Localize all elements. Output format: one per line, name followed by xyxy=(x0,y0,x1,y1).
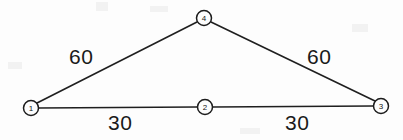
edge-label-1-4: 60 xyxy=(69,46,93,67)
edge-1-2 xyxy=(38,107,197,108)
edge-1-4 xyxy=(37,22,197,103)
graph-svg: 1 2 3 4 xyxy=(0,0,403,140)
node-4[interactable]: 4 xyxy=(197,11,212,26)
node-2[interactable]: 2 xyxy=(198,100,213,115)
node-4-label: 4 xyxy=(202,14,207,23)
edge-4-3 xyxy=(211,22,375,101)
edge-2-3 xyxy=(213,106,373,107)
node-3-label: 3 xyxy=(379,102,384,111)
node-3[interactable]: 3 xyxy=(374,99,389,114)
node-1[interactable]: 1 xyxy=(24,101,39,116)
diagram-canvas: 1 2 3 4 60 60 30 30 xyxy=(0,0,403,140)
edge-label-4-3: 60 xyxy=(307,46,331,67)
node-2-label: 2 xyxy=(203,103,208,112)
edge-label-2-3: 30 xyxy=(285,112,309,133)
node-1-label: 1 xyxy=(29,104,34,113)
edge-label-1-2: 30 xyxy=(108,112,132,133)
